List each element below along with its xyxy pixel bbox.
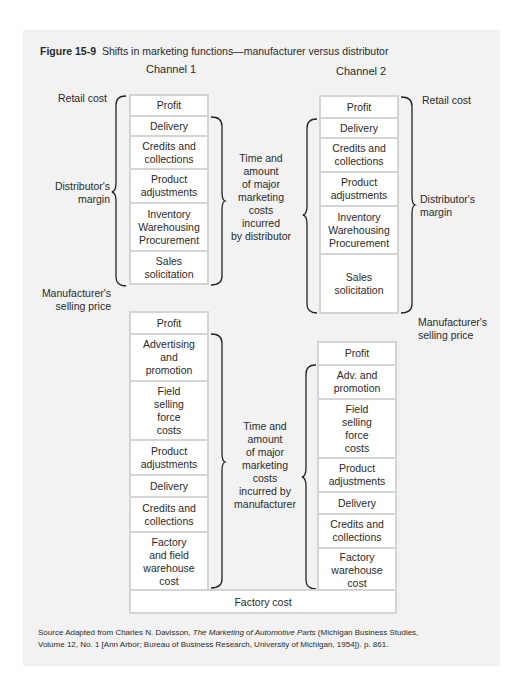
label-line: marketing xyxy=(226,191,296,204)
source-book-title: The Marketing of Automotive Parts xyxy=(193,628,316,637)
ch1-manufacturer-stack: Profit Advertising and promotion Field s… xyxy=(129,311,209,590)
label-line: Distributor's xyxy=(30,180,110,193)
label-line: selling price xyxy=(418,329,487,342)
label-line: of major xyxy=(226,178,296,191)
source-suffix: (Michigan Business Studies, xyxy=(316,628,419,637)
ch1-manufacturer-costs-brace-icon xyxy=(210,333,226,589)
source-citation: Source Adapted from Charles N. Davisson,… xyxy=(38,627,418,651)
label-line: margin xyxy=(30,193,110,206)
source-prefix: Source Adapted from Charles N. Davisson, xyxy=(38,628,193,637)
label-line: Manufacturer's xyxy=(20,287,111,300)
cell-inventory: Inventory Warehousing Procurement xyxy=(131,204,207,252)
cell-profit: Profit xyxy=(131,96,207,117)
cell-delivery: Delivery xyxy=(131,476,207,498)
cell-credits: Credits and collections xyxy=(319,515,395,549)
ch1-distributor-stack: Profit Delivery Credits and collections … xyxy=(129,94,209,285)
cell-factory-warehouse: Factory warehouse cost xyxy=(319,549,395,592)
distributor-costs-label: Time and amount of major marketing costs… xyxy=(226,152,296,243)
channel-1-heading: Channel 1 xyxy=(146,63,196,75)
label-line: marketing xyxy=(230,459,300,472)
channel-2-heading: Channel 2 xyxy=(336,65,386,77)
label-line: Distributor's xyxy=(420,193,475,206)
cell-profit: Profit xyxy=(321,97,397,119)
source-line-2: Volume 12, No. 1 [Ann Arbor; Bureau of B… xyxy=(38,639,418,651)
ch1-retail-cost-label: Retail cost xyxy=(58,92,107,105)
figure-label: Figure 15-9 xyxy=(40,45,96,57)
ch2-manufacturer-stack: Profit Adv. and promotion Field selling … xyxy=(317,341,397,590)
label-line: Time and xyxy=(230,420,300,433)
figure-title-text: Shifts in marketing functions—manufactur… xyxy=(102,45,389,57)
ch1-distributor-margin-label: Distributor's margin xyxy=(30,180,110,206)
cell-field-selling: Field selling force costs xyxy=(319,400,395,459)
label-line: Manufacturer's xyxy=(418,316,487,329)
cell-inventory: Inventory Warehousing Procurement xyxy=(321,207,397,255)
cell-product-adjustments: Product adjustments xyxy=(321,173,397,207)
ch2-distributor-stack: Profit Delivery Credits and collections … xyxy=(319,95,399,314)
ch1-costs-brace-icon xyxy=(210,116,226,286)
source-line-1: Source Adapted from Charles N. Davisson,… xyxy=(38,627,418,639)
ch2-manufacturer-price-label: Manufacturer's selling price xyxy=(418,316,487,342)
label-line: selling price xyxy=(20,300,111,313)
label-line: costs xyxy=(230,472,300,485)
label-line: Time and xyxy=(226,152,296,165)
cell-advertising: Adv. and promotion xyxy=(319,366,395,400)
ch2-distributor-margin-label: Distributor's margin xyxy=(420,193,475,219)
figure-panel xyxy=(23,30,500,666)
ch2-retail-cost-label: Retail cost xyxy=(422,94,471,107)
cell-field-selling: Field selling force costs xyxy=(131,382,207,441)
factory-cost-bar: Factory cost xyxy=(129,589,397,614)
ch2-manufacturer-costs-brace-icon xyxy=(301,364,317,591)
ch1-manufacturer-price-label: Manufacturer's selling price xyxy=(20,287,111,313)
cell-product-adjustments: Product adjustments xyxy=(319,459,395,493)
cell-product-adjustments: Product adjustments xyxy=(131,170,207,204)
manufacturer-costs-label: Time and amount of major marketing costs… xyxy=(230,420,300,511)
cell-credits: Credits and collections xyxy=(321,139,397,173)
label-line: manufacturer xyxy=(230,498,300,511)
cell-product-adjustments: Product adjustments xyxy=(131,441,207,476)
label-line: incurred by xyxy=(230,485,300,498)
cell-delivery: Delivery xyxy=(131,117,207,137)
label-line: margin xyxy=(420,206,475,219)
label-line: by distributor xyxy=(226,230,296,243)
cell-profit: Profit xyxy=(319,343,395,366)
ch2-costs-brace-icon xyxy=(302,118,318,314)
label-line: amount xyxy=(226,165,296,178)
cell-credits: Credits and collections xyxy=(131,137,207,170)
cell-delivery: Delivery xyxy=(319,493,395,515)
label-line: incurred xyxy=(226,217,296,230)
cell-factory-field-warehouse: Factory and field warehouse cost xyxy=(131,533,207,590)
label-line: of major xyxy=(230,446,300,459)
label-line: costs xyxy=(226,204,296,217)
cell-credits: Credits and collections xyxy=(131,498,207,533)
label-line: amount xyxy=(230,433,300,446)
figure-title: Figure 15-9 Shifts in marketing function… xyxy=(40,45,388,57)
ch1-margin-brace-icon xyxy=(112,95,128,287)
cell-sales-solicitation: Sales solicitation xyxy=(131,252,207,283)
cell-advertising: Advertising and promotion xyxy=(131,335,207,382)
cell-delivery: Delivery xyxy=(321,119,397,139)
cell-profit: Profit xyxy=(131,313,207,335)
ch2-margin-brace-icon xyxy=(400,96,416,315)
cell-sales-solicitation: Sales solicitation xyxy=(321,255,397,312)
